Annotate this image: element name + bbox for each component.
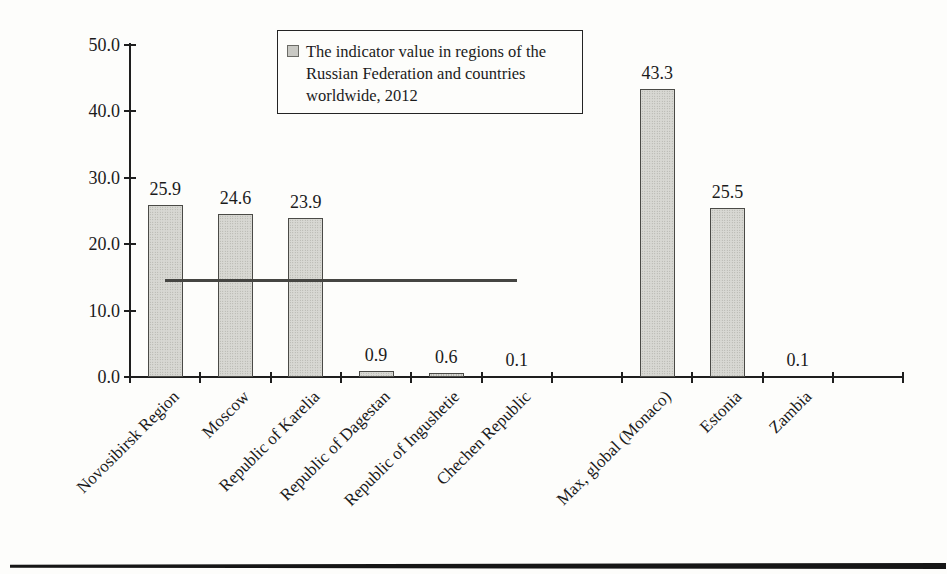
reference-line: [165, 279, 517, 282]
y-axis-tick: [124, 110, 136, 112]
x-axis-tick: [762, 372, 764, 383]
bar-value-label: 25.9: [135, 178, 195, 200]
x-axis-tick: [481, 372, 483, 383]
y-axis-tick: [124, 44, 136, 46]
bar-value-label: 0.6: [416, 346, 476, 368]
y-axis-line: [129, 43, 131, 378]
y-axis-tick-label: 40.0: [58, 100, 120, 122]
bar: [640, 89, 675, 377]
x-axis-tick: [621, 372, 623, 383]
y-axis-tick-label: 0.0: [58, 366, 120, 388]
bar-value-label: 0.1: [487, 349, 547, 371]
y-axis-tick-label: 20.0: [58, 233, 120, 255]
x-axis-tick: [551, 372, 553, 383]
legend-label: The indicator value in regions of the Ru…: [306, 41, 546, 107]
legend-label-line: Russian Federation and countries: [306, 63, 546, 85]
y-axis-tick: [124, 243, 136, 245]
x-axis-category-label-text: Moscow: [198, 387, 254, 443]
bar-value-label: 0.9: [346, 344, 406, 366]
bar: [710, 208, 745, 377]
y-axis-tick-label: 50.0: [58, 34, 120, 56]
x-axis-tick: [199, 372, 201, 383]
legend-series-marker-icon: [287, 45, 299, 57]
chart-page: 0.010.020.030.040.050.025.9Novosibirsk R…: [0, 0, 947, 574]
y-axis-tick-label: 10.0: [58, 300, 120, 322]
x-axis-tick: [902, 372, 904, 383]
x-axis-category-label-text: Estonia: [695, 387, 745, 437]
y-axis-tick-label: 30.0: [58, 167, 120, 189]
x-axis-category-label-text: Republic of Ingushetie: [341, 387, 465, 511]
bar-value-label: 0.1: [768, 349, 828, 371]
bar: [429, 373, 464, 377]
bar: [218, 214, 253, 377]
legend-label-line: The indicator value in regions of the: [306, 41, 546, 63]
x-axis-tick: [691, 372, 693, 383]
x-axis-category-label-text: Max, global (Monaco): [553, 387, 676, 510]
x-axis-tick: [129, 372, 131, 383]
x-axis-tick: [270, 372, 272, 383]
x-axis-category-label-text: Zambia: [765, 387, 816, 438]
x-axis-category-label-text: Novosibirsk Region: [73, 387, 184, 498]
x-axis-tick: [832, 372, 834, 383]
legend: The indicator value in regions of the Ru…: [277, 30, 583, 114]
x-axis-tick: [410, 372, 412, 383]
y-axis-tick: [124, 310, 136, 312]
bar-value-label: 24.6: [205, 187, 265, 209]
bar: [148, 205, 183, 377]
bar: [359, 371, 394, 377]
bar-value-label: 23.9: [276, 191, 336, 213]
bar-value-label: 43.3: [627, 62, 687, 84]
x-axis-tick: [340, 372, 342, 383]
bar: [288, 218, 323, 377]
legend-label-line: worldwide, 2012: [306, 85, 546, 107]
bar-value-label: 25.5: [698, 181, 758, 203]
